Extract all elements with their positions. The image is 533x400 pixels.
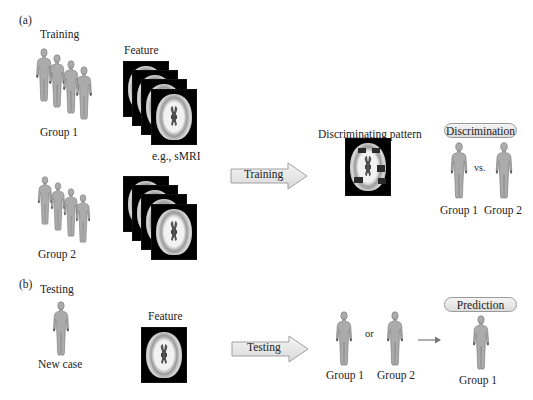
- panel-b-label: (b): [19, 278, 32, 290]
- group-1-label: Group 1: [40, 126, 78, 138]
- group-1-people: [34, 48, 94, 123]
- group-1-person-icon: [449, 142, 469, 200]
- testing-arrow: Testing: [231, 335, 309, 363]
- smri-stack-group-2: [123, 176, 198, 260]
- testing-arrow-label: Testing: [247, 341, 281, 353]
- brain-slice: [151, 89, 197, 145]
- or-label: or: [365, 328, 374, 339]
- choice-group-1-person-icon: [334, 311, 354, 367]
- training-title: Training: [40, 28, 79, 40]
- panel-a-label: (a): [19, 14, 32, 26]
- choice-group-2-person-icon: [385, 311, 405, 367]
- new-case-brain-slice: [141, 327, 187, 383]
- choice-group-1-label: Group 1: [326, 369, 364, 381]
- choice-group-2-label: Group 2: [377, 369, 415, 381]
- brain-slice: [151, 204, 197, 260]
- smri-stack-group-1: [123, 61, 198, 145]
- group-2-person-icon: [494, 142, 514, 200]
- prediction-result-label: Group 1: [459, 374, 497, 386]
- prediction-badge: Prediction: [444, 297, 517, 312]
- discriminating-pattern-map: [345, 138, 391, 196]
- training-arrow: Training: [230, 162, 308, 190]
- testing-title: Testing: [40, 283, 74, 295]
- person-icon: [74, 66, 94, 121]
- group-2-label: Group 2: [38, 248, 76, 260]
- modality-label: e.g., sMRI: [152, 150, 201, 162]
- person-icon: [74, 194, 92, 244]
- training-arrow-label: Training: [244, 168, 283, 180]
- result-arrow-icon: [418, 336, 442, 344]
- feature-label: Feature: [124, 44, 158, 56]
- vs-label: vs.: [474, 162, 485, 173]
- prediction-person-icon: [471, 315, 491, 371]
- group-2-people: [36, 176, 96, 251]
- discrimination-badge: Discrimination: [444, 123, 517, 138]
- discrimination-group-2-label: Group 2: [484, 204, 522, 216]
- new-case-person-icon: [51, 301, 71, 357]
- discrimination-group-1-label: Group 1: [440, 204, 478, 216]
- new-case-label: New case: [38, 358, 82, 370]
- testing-feature-label: Feature: [148, 310, 182, 322]
